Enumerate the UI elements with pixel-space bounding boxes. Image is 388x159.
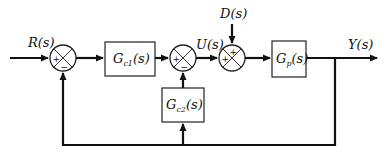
reference-signal-label: R(s) (27, 35, 55, 50)
sum1-plus-sign: + (53, 54, 61, 64)
sum1-minus-sign: − (61, 62, 69, 72)
disturbance-signal-label: D(s) (219, 6, 247, 21)
output-signal-label: Y(s) (348, 37, 373, 52)
summing-junction-2: + − (170, 45, 196, 72)
sum2-plus-sign: + (173, 54, 181, 64)
sum3-top-plus-sign: + (230, 47, 238, 57)
control-signal-label: U(s) (196, 37, 224, 52)
block-diagram: R(s) + − Gc1(s) + − U(s) D(s) + + (0, 0, 388, 159)
gp-label: Gp(s) (276, 51, 308, 68)
summing-junction-1: + − (50, 45, 76, 72)
sum2-minus-sign: − (181, 62, 189, 72)
sum3-left-plus-sign: + (222, 54, 230, 64)
gc1-block: Gc1(s) (105, 42, 155, 76)
gc2-block: Gc2(s) (162, 88, 204, 122)
summing-junction-3: + + (219, 45, 245, 71)
gp-block: Gp(s) (272, 41, 308, 77)
